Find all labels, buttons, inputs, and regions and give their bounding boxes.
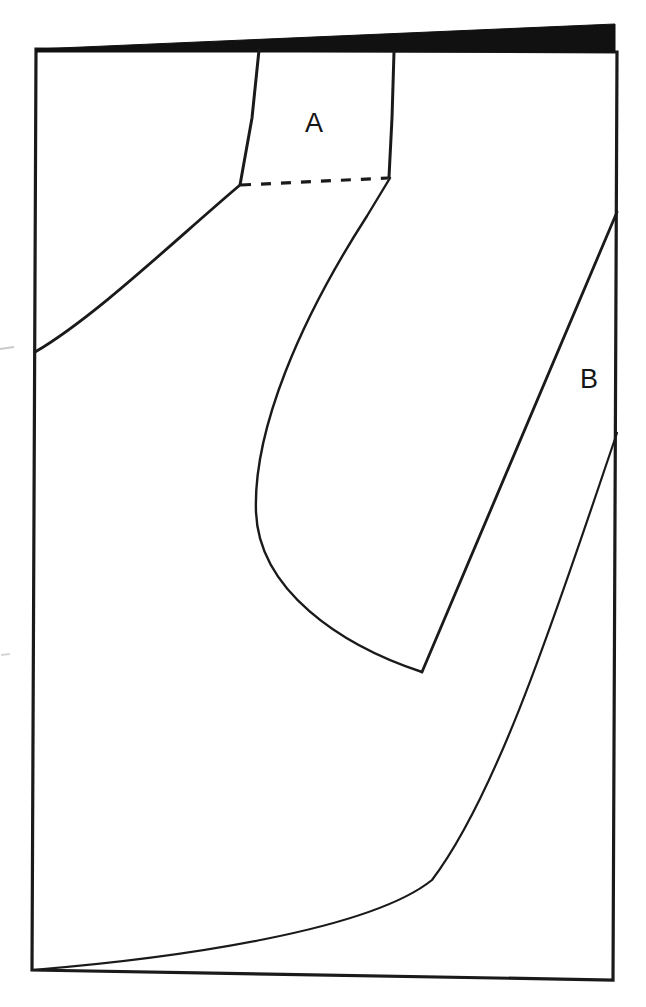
region-label-a: A — [305, 110, 324, 137]
scan-artifact-tick-lower — [1, 654, 10, 655]
figure-background — [0, 0, 646, 1007]
figure-root: A B — [0, 0, 646, 1007]
region-label-b: B — [580, 366, 599, 393]
figure-drawing-canvas — [0, 0, 646, 1007]
